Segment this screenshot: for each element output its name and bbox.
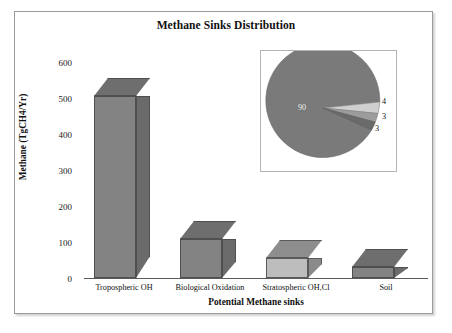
x-axis-line [84, 278, 428, 279]
x-axis-title: Potential Methane sinks [84, 297, 428, 307]
y-tick-100: 100 [38, 239, 72, 248]
bar-side-face [308, 258, 322, 278]
bar-side-face [394, 267, 408, 278]
bar-front-face [180, 239, 222, 278]
y-tick-200: 200 [38, 203, 72, 212]
bar-side-face [136, 96, 150, 278]
y-tick-600: 600 [38, 59, 72, 68]
pie-callout-4: 4 [382, 97, 386, 106]
bar-biological-oxidation [180, 218, 250, 278]
bar-front-face [266, 258, 308, 278]
pie-chart: 90 4 3 3 [261, 51, 398, 173]
bar-top-face [94, 78, 150, 96]
chart-title: Methane Sinks Distribution [0, 19, 452, 31]
chart-figure: Methane Sinks Distribution Methane (TgCH… [0, 0, 452, 333]
bar-stratospheric-oh-cl [266, 238, 336, 278]
bar-soil [352, 246, 422, 278]
bar-side-face [222, 239, 236, 278]
bar-top-face [180, 221, 236, 239]
bar-tropospheric-oh [94, 78, 164, 278]
pie-callout-3-upper: 3 [382, 112, 386, 121]
x-category-soil: Soil [326, 283, 446, 292]
y-tick-400: 400 [38, 131, 72, 140]
y-tick-500: 500 [38, 95, 72, 104]
bar-top-face [352, 249, 408, 267]
bar-front-face [94, 96, 136, 278]
pie-callout-3-lower: 3 [375, 124, 379, 133]
y-tick-300: 300 [38, 167, 72, 176]
y-axis-title: Methane (TgCH4/Yr) [18, 72, 28, 202]
pie-label-90: 90 [298, 103, 306, 112]
bar-front-face [352, 267, 394, 278]
pie-svg [261, 51, 398, 173]
pie-inset-panel: 90 4 3 3 [260, 50, 397, 172]
bar-top-face [266, 240, 322, 258]
